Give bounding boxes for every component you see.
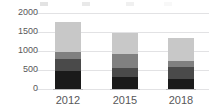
legend xyxy=(0,0,213,7)
y-tick-label-1500: 1500 xyxy=(2,27,38,36)
legend-swatch-series-4 xyxy=(164,2,172,6)
y-tick-label-2000: 2000 xyxy=(2,8,38,17)
x-tick-label-2012: 2012 xyxy=(43,95,93,106)
bar-segment-2015-series-3[interactable] xyxy=(112,54,138,68)
plot-area xyxy=(40,13,209,89)
bar-2018[interactable] xyxy=(168,38,194,89)
y-tick-label-0: 0 xyxy=(2,84,38,93)
bar-segment-2012-series-2[interactable] xyxy=(55,59,81,71)
bar-segment-2015-series-4[interactable] xyxy=(112,33,138,54)
gridline-2000 xyxy=(40,13,209,14)
bar-segment-2012-series-3[interactable] xyxy=(55,52,81,59)
x-tick-rule-2012 xyxy=(53,89,83,90)
bar-segment-2018-series-1[interactable] xyxy=(168,79,194,89)
y-tick-label-1000: 1000 xyxy=(2,46,38,55)
legend-swatch-series-3 xyxy=(126,2,134,6)
x-tick-label-2015: 2015 xyxy=(100,95,150,106)
x-tick-rule-2015 xyxy=(110,89,140,90)
bar-2012[interactable] xyxy=(55,22,81,89)
x-tick-rule-2018 xyxy=(166,89,196,90)
x-tick-label-2018: 2018 xyxy=(156,95,206,106)
bar-segment-2015-series-1[interactable] xyxy=(112,77,138,89)
bar-segment-2018-series-4[interactable] xyxy=(168,38,194,62)
legend-swatch-series-2 xyxy=(82,2,90,6)
bar-segment-2012-series-1[interactable] xyxy=(55,71,81,89)
bar-segment-2012-series-4[interactable] xyxy=(55,22,81,52)
bar-segment-2015-series-2[interactable] xyxy=(112,68,138,77)
bar-2015[interactable] xyxy=(112,33,138,89)
y-tick-label-500: 500 xyxy=(2,65,38,74)
stacked-bar-chart: 0500100015002000201220152018 xyxy=(0,0,213,112)
legend-swatch-series-1 xyxy=(40,2,48,6)
bar-segment-2018-series-2[interactable] xyxy=(168,67,194,78)
